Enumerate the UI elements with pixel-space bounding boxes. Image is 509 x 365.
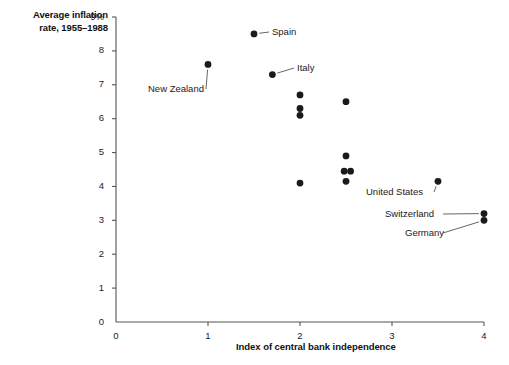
data-point: [269, 71, 276, 78]
y-tick-label: 1: [78, 282, 104, 293]
leader-line: [434, 186, 436, 192]
y-tick-label: 5: [78, 146, 104, 157]
data-point: [481, 217, 488, 224]
x-tick-label: 4: [474, 330, 494, 341]
data-point: [205, 61, 212, 68]
point-label-germany: Germany: [405, 227, 444, 238]
data-point: [297, 105, 304, 112]
plot-area: [0, 0, 509, 365]
point-label-new-zealand: New Zealand: [148, 83, 204, 94]
data-point: [481, 210, 488, 217]
leader-line: [443, 222, 479, 233]
y-tick-label: 7: [78, 78, 104, 89]
y-tick-label: 4: [78, 180, 104, 191]
y-tick-label: 0: [78, 316, 104, 327]
leader-line: [206, 70, 208, 89]
x-tick-label: 2: [290, 330, 310, 341]
data-point: [297, 92, 304, 99]
point-label-united-states: United States: [366, 186, 423, 197]
data-point-markers: [205, 31, 488, 224]
y-tick-label: 6: [78, 112, 104, 123]
annotation-leader-lines: [206, 32, 479, 233]
y-tick-label: 8: [78, 44, 104, 55]
data-point: [341, 168, 348, 175]
data-point: [297, 112, 304, 119]
y-tick-label: 2: [78, 248, 104, 259]
data-point: [343, 153, 350, 160]
data-point: [343, 178, 350, 185]
data-point: [251, 31, 258, 38]
x-tick-label: 3: [382, 330, 402, 341]
point-label-spain: Spain: [272, 26, 296, 37]
data-point: [297, 180, 304, 187]
data-point: [347, 168, 354, 175]
data-point: [435, 178, 442, 185]
point-label-switzerland: Switzerland: [385, 208, 434, 219]
data-point: [343, 98, 350, 105]
y-tick-label: 9%: [78, 11, 104, 22]
y-tick-label: 3: [78, 214, 104, 225]
x-tick-label: 1: [198, 330, 218, 341]
x-axis-title: Index of central bank independence: [236, 341, 396, 352]
x-tick-label: 0: [106, 330, 126, 341]
scatter-chart: Average inflation rate, 1955–1988 012345…: [0, 0, 509, 365]
leader-line: [277, 68, 294, 73]
leader-line: [259, 32, 269, 33]
point-label-italy: Italy: [297, 62, 314, 73]
